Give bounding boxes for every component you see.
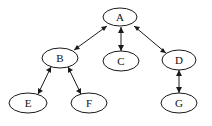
edge-b-e[interactable] <box>38 67 51 94</box>
edge-d-g-arrow-at-g <box>176 87 182 93</box>
edge-a-b-line <box>74 26 107 50</box>
edge-d-g-arrow-at-d <box>176 70 182 76</box>
diagram-canvas: A B C D E F <box>0 0 212 126</box>
node-c[interactable]: C <box>103 51 139 71</box>
edge-a-c-arrow-at-a <box>118 27 124 33</box>
edge-b-f[interactable] <box>68 67 81 94</box>
node-a[interactable]: A <box>103 8 137 26</box>
edge-d-g[interactable] <box>176 70 182 93</box>
node-e-label: E <box>25 97 32 109</box>
edge-a-c[interactable] <box>118 27 124 51</box>
edge-a-b[interactable] <box>74 26 107 50</box>
node-g[interactable]: G <box>161 93 197 113</box>
node-b-label: B <box>56 52 63 64</box>
node-f[interactable]: F <box>71 93 107 113</box>
node-d-label: D <box>175 54 183 66</box>
edge-a-c-arrow-at-c <box>118 45 124 51</box>
node-layer: A B C D E F <box>9 8 197 113</box>
node-f-label: F <box>86 97 92 109</box>
node-b[interactable]: B <box>42 48 78 68</box>
node-c-label: C <box>117 55 124 67</box>
node-e[interactable]: E <box>9 93 47 113</box>
node-a-label: A <box>116 11 124 23</box>
node-d[interactable]: D <box>162 50 196 70</box>
graph-svg: A B C D E F <box>0 0 212 126</box>
node-g-label: G <box>175 97 183 109</box>
edge-a-d-line <box>134 26 166 53</box>
edge-a-d[interactable] <box>134 26 166 53</box>
